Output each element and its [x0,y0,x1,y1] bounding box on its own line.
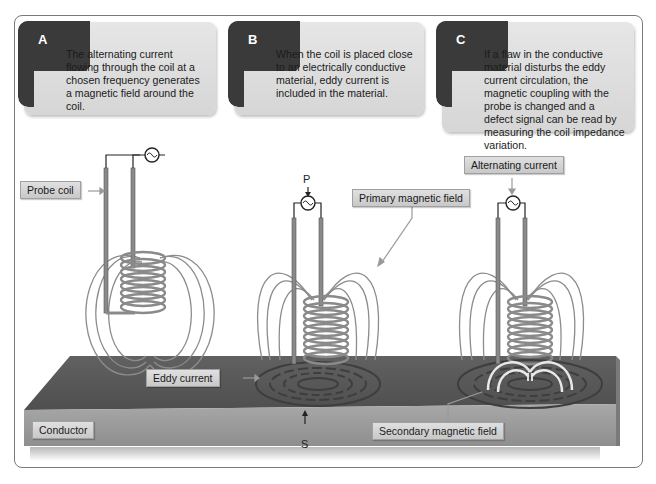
probe-coil-a [104,148,165,313]
conductor-label: Conductor [32,421,94,439]
primary-field-pointer [382,207,412,262]
alternating-current-label: Alternating current [464,156,564,174]
panel-c-letter: C [456,32,465,47]
panel-c-text: If a flaw in the conductive material dis… [484,48,626,152]
eddy-current-label: Eddy current [146,369,220,387]
p-marker: P [303,173,310,185]
panel-a-letter: A [38,32,47,47]
panel-a: A The alternating current flowing throug… [24,22,216,115]
probe-coil-c [496,196,552,364]
panel-b-letter: B [248,32,257,47]
secondary-magnetic-field-label: Secondary magnetic field [372,422,504,440]
primary-magnetic-field-label: Primary magnetic field [352,189,470,207]
panel-c: C If a flaw in the conductive material d… [442,22,634,132]
panel-b: B When the coil is placed close to an el… [234,22,424,115]
probe-coil-label: Probe coil [20,181,81,199]
s-marker: S [301,438,308,450]
probe-coil-b [292,187,348,364]
panel-a-text: The alternating current flowing through … [66,48,208,113]
panel-b-text: When the coil is placed close to an elec… [276,48,416,100]
